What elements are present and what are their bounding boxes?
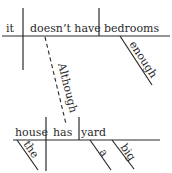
sentence-diagram: it doesn’t have bedrooms enough Although… (0, 0, 172, 173)
subordinate-object-modifier-a: a (97, 146, 112, 159)
main-verb: doesn’t have (30, 22, 101, 35)
main-object-modifier: enough (126, 39, 159, 81)
subordinate-verb: has (53, 126, 73, 139)
main-object: bedrooms (104, 22, 160, 35)
subordinate-subject-modifier: the (21, 138, 42, 160)
connector-word: Although (55, 61, 80, 114)
subordinate-object: yard (80, 126, 106, 139)
main-subject: it (6, 22, 15, 35)
subordinate-object-modifier-big: big (118, 141, 139, 163)
